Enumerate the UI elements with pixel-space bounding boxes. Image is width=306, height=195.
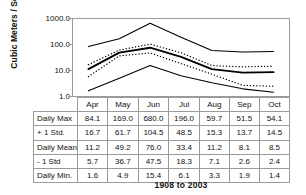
table-cell: 61.7 [108, 126, 139, 140]
table-cell: 14.5 [259, 126, 289, 140]
table-row: - 1 Std5.736.747.518.37.12.62.4 [34, 154, 290, 168]
table-corner-cell [34, 98, 78, 112]
table-cell: 15.3 [199, 126, 229, 140]
table-cell: 8.5 [259, 140, 289, 154]
table-cell: 49.2 [108, 140, 139, 154]
table-cell: 2.6 [229, 154, 259, 168]
table-header-month-apr: Apr [78, 98, 108, 112]
table-header-month-sep: Sep [229, 98, 259, 112]
table-cell: 5.7 [78, 154, 108, 168]
plot-area [72, 18, 290, 97]
y-tick-label-100: 100.0 [30, 40, 70, 49]
table-cell: 11.2 [199, 140, 229, 154]
series-daily-max [88, 23, 273, 52]
table-cell: 196.0 [169, 112, 200, 126]
table-header-month-aug: Aug [199, 98, 229, 112]
table-cell: 2.4 [259, 154, 289, 168]
table-cell: 36.7 [108, 154, 139, 168]
table-cell: 47.5 [138, 154, 169, 168]
y-tick-label-10: 10.0 [30, 66, 70, 75]
table-cell: 54.1 [259, 112, 289, 126]
series-lines [73, 19, 289, 96]
chart-footer-period: 1908 to 2003 [72, 180, 290, 190]
table-body: Daily Max84.1169.0680.0196.059.751.554.1… [34, 112, 290, 183]
table-cell: 13.7 [229, 126, 259, 140]
table-row-label: Daily Min. [34, 168, 78, 182]
table-header-month-jul: Jul [169, 98, 200, 112]
table-row: Daily Mean11.249.276.033.411.28.18.5 [34, 140, 290, 154]
table-header-month-oct: Oct [259, 98, 289, 112]
data-table: AprMayJunJulAugSepOct Daily Max84.1169.0… [33, 97, 290, 183]
table-row-label: Daily Max [34, 112, 78, 126]
series-daily-mean [88, 48, 273, 73]
table-header-month-may: May [108, 98, 139, 112]
table-row-label: - 1 Std [34, 154, 78, 168]
table-row: + 1 Std.16.761.7104.548.515.313.714.5 [34, 126, 290, 140]
table-cell: 18.3 [169, 154, 200, 168]
table-cell: 169.0 [108, 112, 139, 126]
table-cell: 104.5 [138, 126, 169, 140]
table-cell: 59.7 [199, 112, 229, 126]
y-axis-ticks: 1000.0 100.0 10.0 1.0 [28, 0, 70, 100]
table-header-row: AprMayJunJulAugSepOct [34, 98, 290, 112]
table-row-label: Daily Mean [34, 140, 78, 154]
table-cell: 33.4 [169, 140, 200, 154]
table-cell: 76.0 [138, 140, 169, 154]
table-cell: 8.1 [229, 140, 259, 154]
series-daily-min [88, 66, 273, 93]
table-cell: 11.2 [78, 140, 108, 154]
table-cell: 84.1 [78, 112, 108, 126]
table-cell: 16.7 [78, 126, 108, 140]
series-1-std [88, 53, 273, 86]
table-cell: 48.5 [169, 126, 200, 140]
table-row: Daily Max84.1169.0680.0196.059.751.554.1 [34, 112, 290, 126]
table-header-month-jun: Jun [138, 98, 169, 112]
y-axis-title: Cubic Meters / Second [9, 0, 23, 74]
chart-figure: Cubic Meters / Second 1000.0 100.0 10.0 … [0, 0, 306, 195]
table-row-label: + 1 Std. [34, 126, 78, 140]
table-cell: 51.5 [229, 112, 259, 126]
table-cell: 7.1 [199, 154, 229, 168]
table-cell: 680.0 [138, 112, 169, 126]
y-tick-label-1000: 1000.0 [30, 14, 70, 23]
